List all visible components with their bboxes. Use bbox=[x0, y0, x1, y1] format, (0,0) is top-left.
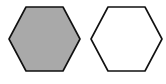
hexagon-filled bbox=[9, 7, 80, 71]
hexagon-diagram bbox=[0, 0, 166, 84]
hexagon-empty bbox=[91, 7, 162, 71]
